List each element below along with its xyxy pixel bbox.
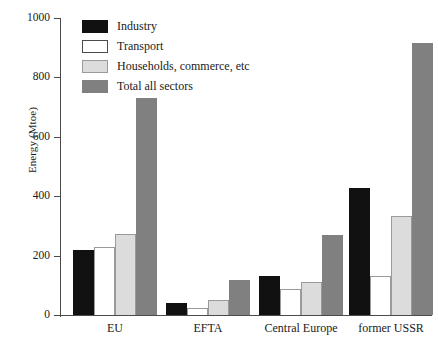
bar-households-commerce-etc-eu bbox=[115, 234, 136, 315]
legend-item: Total all sectors bbox=[82, 76, 250, 96]
bar-industry-efta bbox=[166, 303, 187, 315]
bar-transport-former-ussr bbox=[370, 276, 391, 315]
bar-total-all-sectors-central-europe bbox=[322, 235, 343, 315]
x-axis-tick-label: former USSR bbox=[358, 321, 424, 336]
y-axis-tick bbox=[54, 315, 61, 316]
bar-industry-former-ussr bbox=[349, 188, 370, 315]
y-axis-tick-label: 800 bbox=[6, 72, 50, 84]
chart-legend: IndustryTransportHouseholds, commerce, e… bbox=[82, 16, 250, 96]
y-axis-tick-label: 1000 bbox=[6, 12, 50, 24]
y-axis-tick-label: 200 bbox=[6, 250, 50, 262]
x-axis-tick-label: Central Europe bbox=[265, 321, 338, 336]
legend-item-label: Households, commerce, etc bbox=[117, 60, 250, 72]
x-axis-tick-label: EU bbox=[107, 321, 123, 336]
legend-item: Households, commerce, etc bbox=[82, 56, 250, 76]
legend-item: Industry bbox=[82, 16, 250, 36]
bar-households-commerce-etc-former-ussr bbox=[391, 216, 412, 315]
bar-transport-eu bbox=[94, 247, 115, 315]
legend-swatch-icon bbox=[82, 20, 108, 33]
bar-total-all-sectors-eu bbox=[136, 98, 157, 315]
y-axis-tick bbox=[54, 137, 61, 138]
bar-transport-central-europe bbox=[280, 289, 301, 315]
y-axis-tick-label: 0 bbox=[6, 309, 50, 321]
bar-chart: Energy (Mtoe) 02004006008001000 EUEFTACe… bbox=[0, 0, 438, 355]
bar-industry-eu bbox=[73, 250, 94, 315]
legend-item-label: Transport bbox=[117, 40, 163, 52]
bar-transport-efta bbox=[187, 308, 208, 315]
legend-item: Transport bbox=[82, 36, 250, 56]
legend-item-label: Total all sectors bbox=[117, 80, 193, 92]
bar-industry-central-europe bbox=[259, 276, 280, 315]
bar-group bbox=[259, 18, 343, 315]
bar-households-commerce-etc-efta bbox=[208, 300, 229, 315]
legend-swatch-icon bbox=[82, 60, 108, 73]
y-axis-tick bbox=[54, 256, 61, 257]
y-axis-tick bbox=[54, 77, 61, 78]
bar-households-commerce-etc-central-europe bbox=[301, 282, 322, 315]
bar-total-all-sectors-efta bbox=[229, 280, 250, 315]
legend-item-label: Industry bbox=[117, 20, 157, 32]
legend-swatch-icon bbox=[82, 80, 108, 93]
legend-swatch-icon bbox=[82, 40, 108, 53]
x-axis-tick-label: EFTA bbox=[193, 321, 222, 336]
y-axis-tick-label: 400 bbox=[6, 190, 50, 202]
y-axis-tick bbox=[54, 18, 61, 19]
x-axis-line bbox=[61, 315, 432, 316]
bar-total-all-sectors-former-ussr bbox=[412, 43, 433, 315]
y-axis-tick-label: 600 bbox=[6, 131, 50, 143]
y-axis-tick bbox=[54, 196, 61, 197]
bar-group bbox=[349, 18, 433, 315]
